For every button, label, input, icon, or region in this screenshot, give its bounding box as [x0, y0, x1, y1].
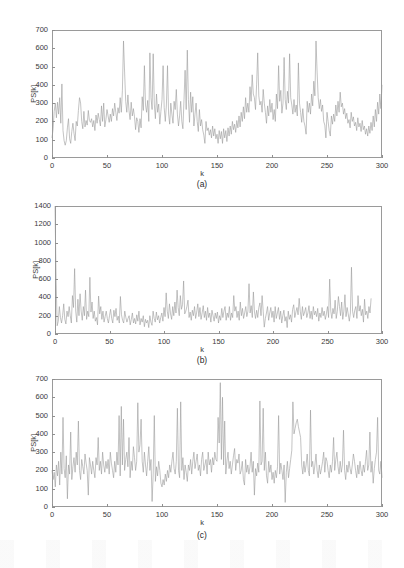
y-tick-mark [55, 279, 58, 280]
x-tick-mark [382, 331, 383, 334]
panel-caption-a: (a) [0, 180, 404, 189]
x-tick-label: 200 [258, 338, 288, 346]
y-tick-mark [52, 158, 55, 159]
x-tick-label: 300 [367, 338, 397, 346]
x-tick-label: 0 [37, 162, 67, 170]
y-tick-label: 0 [0, 330, 51, 338]
y-tick-mark [55, 316, 58, 317]
y-tick-mark [52, 507, 55, 508]
y-tick-label: 600 [0, 393, 48, 401]
panel-caption-c: (c) [0, 531, 404, 540]
x-tick-mark [217, 155, 218, 158]
x-tick-label: 300 [367, 511, 397, 519]
x-tick-mark [107, 504, 108, 507]
y-tick-label: 200 [0, 117, 48, 125]
y-tick-mark [55, 206, 58, 207]
y-tick-mark [52, 470, 55, 471]
y-tick-label: 700 [0, 375, 48, 383]
x-tick-label: 200 [257, 162, 287, 170]
y-tick-mark [52, 379, 55, 380]
y-tick-label: 500 [0, 63, 48, 71]
y-tick-mark [55, 224, 58, 225]
y-tick-mark [52, 103, 55, 104]
y-tick-label: 200 [0, 312, 51, 320]
x-tick-mark [107, 155, 108, 158]
x-tick-mark [52, 155, 53, 158]
x-tick-mark [272, 504, 273, 507]
y-tick-label: 0 [0, 503, 48, 511]
y-tick-mark [52, 85, 55, 86]
x-tick-label: 0 [40, 338, 70, 346]
y-axis-label-c: PS[k] [30, 423, 38, 463]
y-tick-mark [52, 48, 55, 49]
y-tick-label: 100 [0, 485, 48, 493]
y-tick-mark [52, 416, 55, 417]
x-tick-mark [164, 331, 165, 334]
figure-three-panel-periodogram: 0100200300400500600700050100150200250300… [0, 0, 404, 568]
x-axis-label-a: k [0, 170, 404, 178]
x-tick-mark [327, 504, 328, 507]
x-tick-label: 50 [92, 162, 122, 170]
x-tick-label: 200 [257, 511, 287, 519]
y-tick-mark [52, 121, 55, 122]
y-tick-mark [52, 452, 55, 453]
x-tick-mark [219, 331, 220, 334]
y-axis-label-b: PS[k] [32, 250, 40, 290]
y-tick-label: 200 [0, 466, 48, 474]
x-tick-label: 250 [312, 162, 342, 170]
y-tick-mark [52, 489, 55, 490]
y-tick-label: 500 [0, 412, 48, 420]
x-tick-mark [52, 504, 53, 507]
x-tick-mark [55, 331, 56, 334]
x-tick-label: 0 [37, 511, 67, 519]
x-tick-label: 50 [92, 511, 122, 519]
panel-c: 0100200300400500600700050100150200250300… [0, 363, 404, 553]
x-tick-label: 150 [204, 338, 234, 346]
x-tick-label: 150 [202, 511, 232, 519]
x-tick-mark [272, 155, 273, 158]
y-tick-mark [55, 243, 58, 244]
x-tick-mark [382, 504, 383, 507]
y-tick-mark [52, 30, 55, 31]
y-tick-mark [55, 261, 58, 262]
x-tick-mark [110, 331, 111, 334]
y-tick-mark [55, 297, 58, 298]
x-tick-mark [162, 155, 163, 158]
x-tick-mark [162, 504, 163, 507]
y-tick-mark [52, 67, 55, 68]
x-tick-mark [328, 331, 329, 334]
y-tick-mark [52, 397, 55, 398]
x-tick-label: 50 [95, 338, 125, 346]
y-tick-mark [52, 140, 55, 141]
x-tick-label: 150 [202, 162, 232, 170]
x-tick-label: 250 [312, 511, 342, 519]
x-tick-label: 100 [149, 338, 179, 346]
y-tick-label: 1200 [0, 220, 51, 228]
y-tick-label: 300 [0, 448, 48, 456]
y-tick-label: 300 [0, 99, 48, 107]
y-tick-label: 1000 [0, 239, 51, 247]
y-tick-label: 400 [0, 293, 51, 301]
x-axis-label-c: k [0, 519, 404, 527]
x-tick-mark [217, 504, 218, 507]
panel-a: 0100200300400500600700050100150200250300… [0, 14, 404, 194]
y-tick-mark [52, 434, 55, 435]
x-tick-label: 300 [367, 162, 397, 170]
x-tick-label: 100 [147, 162, 177, 170]
x-tick-mark [327, 155, 328, 158]
y-tick-mark [55, 334, 58, 335]
y-axis-label-a: PS[k] [30, 74, 38, 114]
x-tick-label: 100 [147, 511, 177, 519]
x-tick-label: 250 [313, 338, 343, 346]
y-tick-label: 400 [0, 430, 48, 438]
y-tick-label: 100 [0, 136, 48, 144]
x-axis-label-b: k [0, 346, 404, 354]
x-tick-mark [273, 331, 274, 334]
y-tick-label: 600 [0, 44, 48, 52]
panel-b: 0200400600800100012001400050100150200250… [0, 190, 404, 370]
y-tick-label: 800 [0, 257, 51, 265]
y-tick-label: 700 [0, 26, 48, 34]
y-tick-label: 600 [0, 275, 51, 283]
x-tick-mark [382, 155, 383, 158]
y-tick-label: 0 [0, 154, 48, 162]
